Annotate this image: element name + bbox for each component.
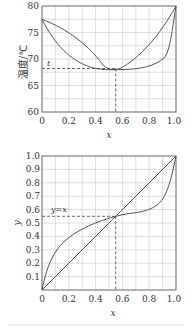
top-xtick: 1.0	[167, 116, 182, 126]
top-xtick: 0.8	[142, 116, 157, 126]
top-ytick: 65	[28, 81, 40, 91]
top-ytick: 70	[28, 54, 40, 64]
bottom-xtick: 0.4	[88, 294, 103, 304]
t-label: t	[47, 59, 51, 68]
top-ytick: 75	[28, 28, 40, 38]
top-xtick: 0.6	[115, 116, 130, 126]
bottom-ytick: 1.0	[26, 151, 41, 161]
bottom-xtick: 1.0	[167, 294, 182, 304]
top-ylabel: 温度/℃	[17, 45, 29, 80]
y-x-equilibrium-chart: y=x 1.0 0.9 0.8 0.7 0.6 0.5 0.4 0.3 0.2 …	[12, 151, 181, 318]
bottom-ylabel: y	[12, 220, 22, 227]
bottom-xtick: 0.8	[142, 294, 157, 304]
faint-caption	[8, 324, 184, 326]
y-equals-x-label: y=x	[50, 205, 67, 214]
temperature-composition-chart: t 80 75 70 65 60 0 0.2 0.4 0.6 0.8 1.0 x…	[17, 1, 181, 140]
bottom-ytick: 0.3	[26, 245, 41, 255]
top-xtick: 0.4	[88, 116, 103, 126]
top-ytick: 60	[28, 107, 40, 117]
bottom-ytick: 0.5	[26, 218, 41, 228]
bottom-xtick: 0	[39, 294, 45, 304]
bottom-ytick: 0.6	[26, 205, 41, 215]
bottom-xtick: 0.2	[62, 294, 76, 304]
bottom-xlabel: x	[110, 308, 115, 318]
top-xtick: 0.2	[62, 116, 76, 126]
top-xlabel: x	[106, 130, 111, 140]
bottom-ytick: 0.4	[26, 231, 41, 241]
bottom-ytick: 0.9	[26, 164, 41, 174]
bottom-ytick: 0.1	[26, 272, 40, 282]
bottom-ytick: 0.7	[26, 191, 41, 201]
bottom-xtick: 0.6	[115, 294, 130, 304]
bottom-ytick: 0.2	[26, 258, 40, 268]
top-ytick: 80	[28, 1, 40, 11]
top-grid	[42, 6, 176, 112]
figure: t 80 75 70 65 60 0 0.2 0.4 0.6 0.8 1.0 x…	[0, 0, 192, 329]
top-xtick: 0	[39, 116, 45, 126]
bottom-ytick: 0.8	[26, 178, 41, 188]
